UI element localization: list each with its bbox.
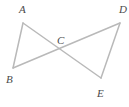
vertex-label-e: E <box>97 88 104 99</box>
vertex-label-d: D <box>119 4 127 15</box>
segment-ae <box>23 23 101 78</box>
figure-canvas <box>0 0 129 107</box>
vertex-label-b: B <box>6 74 13 85</box>
segment-bd <box>13 23 120 68</box>
segment-ab <box>13 23 23 68</box>
geometry-figure: A B C D E <box>0 0 129 107</box>
segment-de <box>101 23 120 78</box>
vertex-label-a: A <box>19 4 26 15</box>
vertex-label-c: C <box>57 35 64 46</box>
